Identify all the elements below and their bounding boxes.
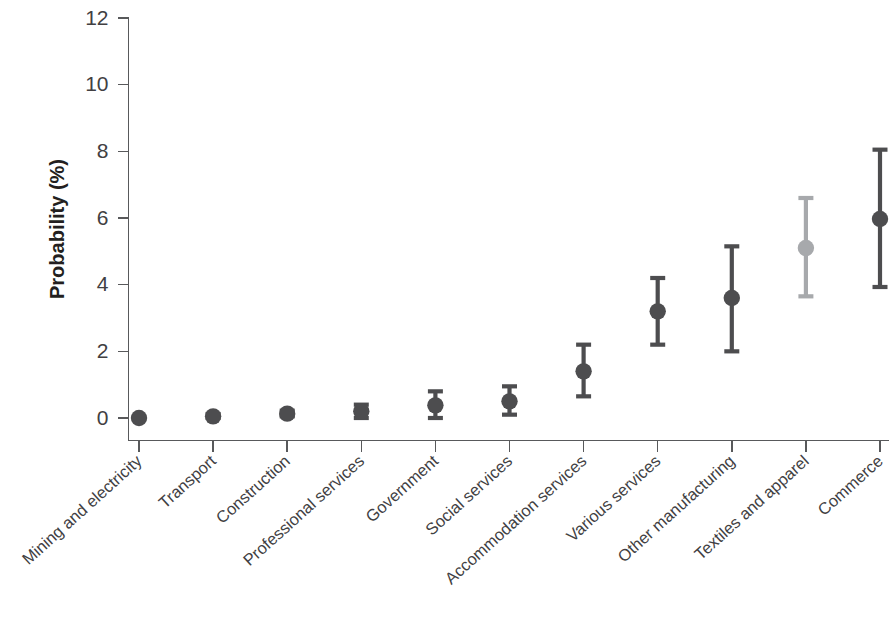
data-point-marker: [427, 397, 443, 413]
y-axis-title: Probability (%): [46, 159, 68, 299]
chart-canvas: 024681012 Mining and electricityTranspor…: [0, 0, 890, 628]
y-tick-label: 0: [97, 406, 109, 429]
data-point-marker: [279, 405, 295, 421]
y-tick-label: 6: [97, 206, 109, 229]
y-tick-label: 10: [85, 72, 108, 95]
data-point-marker: [205, 408, 221, 424]
data-point-group: [279, 405, 295, 421]
data-point-group: [353, 403, 369, 419]
data-point-marker: [798, 240, 814, 256]
probability-by-sector-chart: 024681012 Mining and electricityTranspor…: [0, 0, 890, 628]
data-point-marker: [353, 403, 369, 419]
data-point-marker: [872, 211, 888, 227]
data-point-marker: [501, 393, 517, 409]
y-tick-label: 12: [85, 6, 108, 29]
data-point-marker: [724, 290, 740, 306]
data-point-group: [131, 410, 147, 426]
chart-background: [0, 0, 890, 628]
y-tick-label: 4: [97, 272, 109, 295]
data-point-marker: [575, 363, 591, 379]
y-tick-label: 2: [97, 339, 109, 362]
data-point-marker: [131, 410, 147, 426]
data-point-group: [205, 408, 221, 424]
y-tick-label: 8: [97, 139, 109, 162]
data-point-marker: [650, 303, 666, 319]
